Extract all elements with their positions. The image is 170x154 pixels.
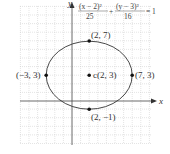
point-center	[87, 73, 91, 77]
eq-term2-numerator: (y − 3)²	[116, 2, 139, 11]
x-axis-arrow-icon	[151, 99, 157, 104]
label-left-vertex: (−3, 3)	[16, 70, 41, 80]
label-top-vertex: (2, 7)	[91, 30, 111, 40]
x-axis-label: x	[158, 96, 163, 106]
point-bottom-vertex	[87, 108, 91, 112]
point-left-vertex	[44, 73, 48, 77]
label-bottom-vertex: (2, −1)	[91, 112, 116, 122]
eq-term1-denominator: 25	[86, 12, 94, 21]
point-right-vertex	[130, 73, 134, 77]
ellipse-diagram: x y (x − 2)² 25 + (y − 3)² 16 = 1 (2, 7)…	[0, 0, 170, 154]
eq-term2-denominator: 16	[124, 12, 132, 21]
label-center: c(2, 3)	[93, 70, 117, 80]
eq-plus: +	[109, 7, 113, 16]
eq-term1-numerator: (x − 2)²	[79, 2, 102, 11]
eq-equals: = 1	[146, 7, 156, 16]
y-axis-label: y	[67, 0, 72, 8]
equation: (x − 2)² 25 + (y − 3)² 16 = 1	[78, 2, 156, 21]
label-right-vertex: (7, 3)	[135, 70, 155, 80]
